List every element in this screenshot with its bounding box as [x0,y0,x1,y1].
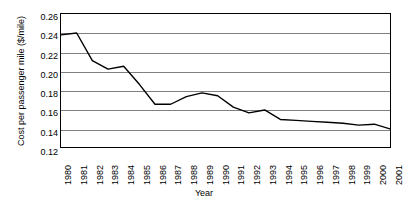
y-tick-label: 0.16 [40,109,58,118]
x-tick-label: 1984 [127,165,136,185]
x-tick-label: 1998 [348,165,357,185]
y-tick-label: 0.26 [40,13,58,22]
x-tick-label: 1987 [174,165,183,185]
x-tick-label: 1990 [222,165,231,185]
x-tick-label: 1985 [143,165,152,185]
y-tick-label: 0.24 [40,32,58,41]
x-tick-label: 1995 [300,165,309,185]
x-tick-label: 1981 [80,165,89,185]
x-axis-tick-labels: 1980198119821983198419851986198719881989… [60,149,391,189]
series-polyline [61,33,390,129]
x-tick-label: 1986 [159,165,168,185]
y-tick-label: 0.14 [40,129,58,138]
x-tick-label: 1989 [206,165,215,185]
x-tick-label: 2000 [379,165,388,185]
x-tick-label: 1983 [111,165,120,185]
x-tick-label: 1997 [332,165,341,185]
x-tick-label: 1991 [237,165,246,185]
x-tick-label: 1993 [269,165,278,185]
y-tick-label: 0.22 [40,52,58,61]
y-tick-label: 0.20 [40,71,58,80]
chart-container: Cost per passenger mile ($/mile) 0.260.2… [0,0,408,206]
x-tick-label: 2001 [395,165,404,185]
x-tick-label: 1982 [96,165,105,185]
line-series-cost-per-passenger-mile [61,14,390,147]
x-tick-label: 1992 [253,165,262,185]
y-tick-label: 0.18 [40,90,58,99]
x-tick-label: 1999 [363,165,372,185]
plot-area [60,13,391,148]
x-tick-label: 1988 [190,165,199,185]
y-tick-label: 0.12 [40,148,58,157]
x-axis-title: Year [0,188,408,198]
x-tick-label: 1994 [285,165,294,185]
y-axis-tick-labels: 0.260.240.220.200.180.160.140.12 [22,8,58,153]
x-tick-label: 1980 [64,165,73,185]
x-tick-label: 1996 [316,165,325,185]
